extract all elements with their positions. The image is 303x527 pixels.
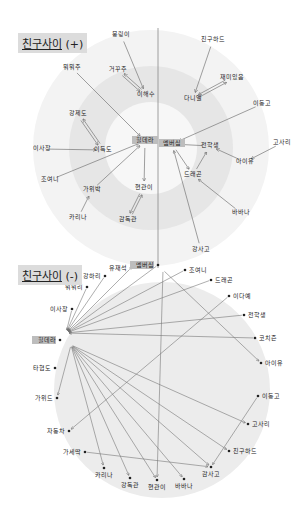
node-label: 타협도 [33, 364, 51, 372]
node-dot [210, 279, 213, 282]
node-dot [257, 395, 260, 398]
node-label: 이해수 [137, 90, 155, 98]
node-label: 가위박 [83, 185, 101, 193]
node: 거꾸주 [109, 65, 127, 73]
node: 이사장 [50, 305, 73, 313]
node-label: 거꾸주 [109, 65, 127, 73]
node-dot [129, 477, 132, 480]
node-label: 감사고 [202, 470, 220, 478]
ring-2 [105, 102, 197, 194]
node-label: 현관이 [148, 483, 166, 491]
node-dot [84, 451, 87, 454]
node-dot [54, 367, 57, 370]
node: 뭉링이 [112, 30, 130, 38]
node-label: 뭐뭐주 [63, 63, 81, 71]
node: 이동고 [253, 99, 271, 107]
node-label: 가위드 [35, 394, 53, 402]
node: 친구하드 [201, 35, 225, 43]
node-label: 드래곤 [184, 170, 202, 178]
node: 아이유 [236, 157, 254, 165]
node: 조여니 [184, 266, 207, 274]
node: 친구하드 [228, 447, 257, 455]
node-dot [103, 467, 106, 470]
node: 드래곤 [210, 276, 233, 284]
node-label: 강사고 [192, 245, 210, 253]
positive-title-text: 친구사이 [22, 38, 62, 51]
node: 이해수 [137, 90, 155, 98]
node: 강사고 [192, 245, 210, 253]
node: 유재석 [109, 264, 132, 272]
node-dot [59, 339, 62, 342]
node-dot [156, 479, 159, 482]
node-dot [260, 362, 263, 365]
node-dot [228, 450, 231, 453]
node-label: 힐데라 [38, 336, 56, 344]
node: 재미있음 [220, 73, 244, 81]
node: 이사장 [33, 144, 51, 152]
node-label: 다니엘 [184, 94, 202, 102]
node-label: 조여니 [189, 266, 207, 274]
node-label: 카리나 [69, 213, 87, 221]
node-dot [86, 286, 89, 289]
friendship-diagrams: 뭉링이뭐뭐주거꾸주이해수친구하드재미있음다니엘이동고강제도이사장이득도힐데라멤버… [0, 0, 303, 527]
node: 조여니 [41, 175, 59, 183]
node-label: 조여니 [41, 175, 59, 183]
node-label: 힐데라 [136, 136, 154, 144]
node: 가위박 [83, 185, 101, 193]
node-label: 전학생 [248, 311, 266, 319]
node-label: 고사리 [252, 420, 270, 428]
node-label: 현관이 [135, 183, 153, 191]
node-dot [254, 337, 257, 340]
node-label: 자동차 [47, 427, 65, 435]
node-label: 이득도 [94, 145, 112, 153]
edge [67, 311, 72, 330]
node-dot [56, 397, 59, 400]
node-dot [228, 295, 231, 298]
node-label: 멤버십 [136, 261, 154, 269]
node-label: 아이유 [265, 359, 283, 367]
node-label: 감독관 [119, 215, 137, 223]
node: 바바나 [232, 208, 250, 216]
node-label: 강독관 [121, 481, 139, 489]
node-label: 바바나 [175, 482, 193, 490]
node: 멤버십 [159, 139, 185, 147]
node-dot [247, 423, 250, 426]
negative-title: 친구사이 (-) [18, 265, 82, 285]
node-label: 가세딱 [63, 448, 81, 456]
node-label: 재미있음 [220, 73, 244, 81]
node: 이득도 [94, 145, 112, 153]
node-label: 뭉링이 [112, 30, 130, 38]
node-label: 강하리 [83, 272, 101, 280]
node-dot [71, 308, 74, 311]
node-dot [210, 466, 213, 469]
node-dot [104, 275, 107, 278]
node: 다니엘 [184, 94, 202, 102]
node-label: 아이유 [236, 157, 254, 165]
node-dot [157, 264, 160, 267]
node-label: 이사장 [50, 305, 68, 313]
node-label: 바바나 [232, 208, 250, 216]
node-label: 이다예 [233, 292, 251, 300]
node: 힐데라 [132, 136, 158, 144]
node-dot [183, 478, 186, 481]
node-label: 이동고 [262, 392, 280, 400]
node-label: 강제도 [69, 109, 87, 117]
node-label: 전학생 [201, 141, 219, 149]
node-label: 이동고 [253, 99, 271, 107]
node: 카리나 [69, 213, 87, 221]
node: 전학생 [201, 141, 219, 149]
node-dot [184, 269, 187, 272]
node-label: 친구하드 [201, 35, 225, 43]
node: 뭐뭐주 [63, 63, 81, 71]
node-label: 코치즌 [259, 334, 277, 342]
node-label: 유재석 [109, 264, 127, 272]
node: 이다예 [228, 292, 251, 300]
node-label: 멤버십 [163, 139, 181, 147]
node: 타협도 [33, 364, 56, 372]
node: 힐데라 [32, 336, 61, 344]
negative-title-text: 친구사이 [22, 270, 62, 283]
node-dot [243, 314, 246, 317]
node: 현관이 [135, 183, 153, 191]
node: 강제도 [69, 109, 87, 117]
positive-title: 친구사이 (+) [18, 33, 87, 53]
